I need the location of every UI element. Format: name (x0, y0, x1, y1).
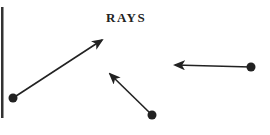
rays-diagram: RAYS (0, 0, 270, 135)
left-border-bar (1, 7, 4, 118)
ray-endpoint-dot (247, 63, 256, 72)
ray-1 (9, 40, 103, 103)
ray-3 (175, 63, 256, 72)
rays-drawing (0, 0, 270, 135)
ray-endpoint-dot (9, 94, 18, 103)
ray-2 (110, 74, 157, 120)
ray-endpoint-dot (148, 111, 157, 120)
